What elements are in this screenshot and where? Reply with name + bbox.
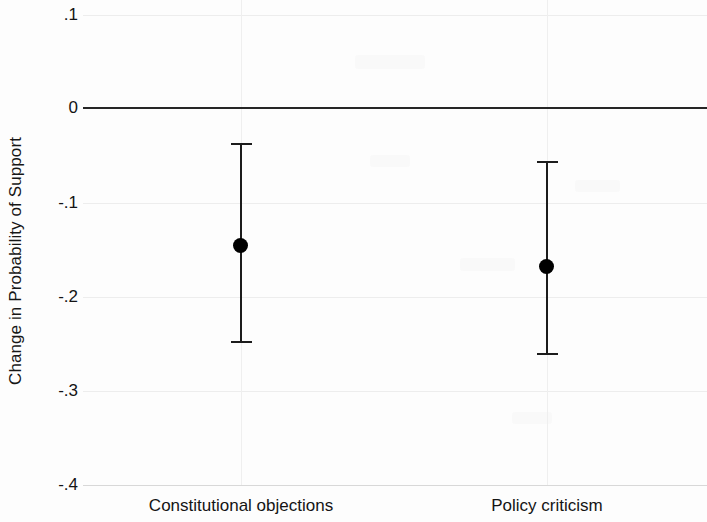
errorbar-lower-cap — [231, 341, 252, 343]
axis-line-bottom — [83, 485, 707, 486]
gridline-y--0.3 — [83, 391, 707, 392]
y-tick-label--0.1: -.1 — [32, 193, 78, 213]
zero-reference-line — [83, 107, 707, 109]
y-tick-label--0.2: -.2 — [32, 287, 78, 307]
y-tick-label--0.4: -.4 — [32, 475, 78, 495]
x-tick-label-constitutional-objections: Constitutional objections — [149, 496, 333, 516]
gridline-y--0.2 — [83, 297, 707, 298]
gridline-y--0.1 — [83, 203, 707, 204]
errorbar-stem — [546, 161, 548, 354]
x-tick-label-policy-criticism: Policy criticism — [491, 496, 602, 516]
figure-canvas: Change in Probability of Support .1 0 -.… — [0, 0, 707, 522]
plot-area: .1 0 -.1 -.2 -.3 -.4 — [0, 0, 707, 522]
data-point-marker — [539, 259, 554, 274]
data-point-marker — [233, 238, 248, 253]
gridline-y-0.1 — [83, 15, 707, 16]
errorbar-lower-cap — [537, 353, 558, 355]
y-tick-label-0.1: .1 — [32, 5, 78, 25]
y-tick-label-0: 0 — [32, 98, 78, 118]
y-tick-label--0.3: -.3 — [32, 381, 78, 401]
